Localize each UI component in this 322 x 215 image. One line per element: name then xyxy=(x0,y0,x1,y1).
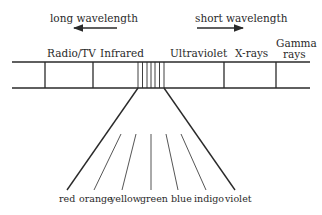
short-wavelength-indicator: short wavelength xyxy=(195,12,288,28)
fan-edge-red xyxy=(67,88,138,190)
band-label-radio-tv: Radio/TV xyxy=(47,47,96,59)
long-wavelength-label: long wavelength xyxy=(50,12,138,24)
color-label-green: green xyxy=(140,193,168,204)
electromagnetic-spectrum-diagram: long wavelength short wavelength Radio/T… xyxy=(0,0,322,215)
color-label-indigo: indigo xyxy=(194,193,224,204)
band-label-ultraviolet: Ultraviolet xyxy=(170,47,228,59)
visible-band-hatching xyxy=(138,62,164,88)
ray-orange xyxy=(94,134,121,190)
short-wavelength-label: short wavelength xyxy=(195,12,288,24)
band-label-x-rays: X-rays xyxy=(235,47,268,59)
ray-yellow xyxy=(122,134,136,190)
band-label-gamma-line2: rays xyxy=(283,48,306,60)
spectrum-strip xyxy=(12,62,310,88)
long-wavelength-indicator: long wavelength xyxy=(50,12,138,28)
color-label-violet: violet xyxy=(224,193,252,204)
visible-light-fan xyxy=(67,88,235,190)
ray-blue xyxy=(166,134,178,190)
color-label-red: red xyxy=(59,193,75,204)
visible-color-labels: red orange yellow green blue indigo viol… xyxy=(59,193,252,204)
band-label-infrared: Infrared xyxy=(100,47,144,59)
color-label-yellow: yellow xyxy=(109,193,141,204)
color-label-blue: blue xyxy=(171,193,192,204)
color-label-orange: orange xyxy=(79,193,113,204)
